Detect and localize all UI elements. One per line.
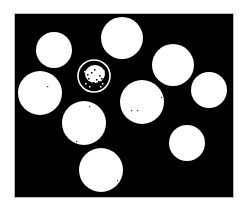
noise-speck xyxy=(161,97,162,98)
circle-blob-c8 xyxy=(62,101,106,145)
circle-blob-c2 xyxy=(101,17,143,59)
circle-blob-c7 xyxy=(120,80,164,124)
noise-speck xyxy=(131,110,132,111)
ring-blob-c3 xyxy=(78,60,110,92)
noise-speck xyxy=(117,180,118,181)
circle-blob-c9 xyxy=(169,125,205,161)
noise-speck xyxy=(89,106,90,107)
circle-blob-c10 xyxy=(79,148,123,192)
circle-blob-c1 xyxy=(36,32,72,68)
noise-speck xyxy=(76,141,77,142)
noise-speck xyxy=(137,110,138,111)
circle-blob-c6 xyxy=(191,72,227,108)
circle-blob-c5 xyxy=(18,71,62,115)
circle-blobs-layer xyxy=(0,0,245,211)
circle-blob-c4 xyxy=(152,44,194,86)
noise-speck xyxy=(47,86,48,87)
